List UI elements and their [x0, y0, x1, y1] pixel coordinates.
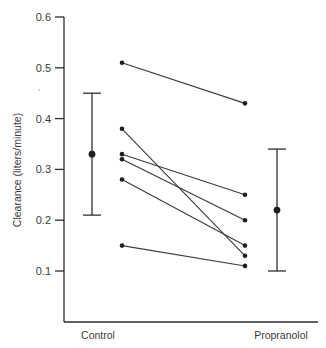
control-point: [120, 60, 125, 65]
propranolol-point: [243, 243, 248, 248]
propranolol-point: [243, 218, 248, 223]
y-axis: 0.10.20.30.40.50.6: [36, 11, 64, 322]
category-label-propranolol: Propranolol: [254, 329, 308, 341]
y-axis-label-group: Clearance (liters/minute): [11, 113, 23, 227]
propranolol-point: [243, 264, 248, 269]
y-tick-label: 0.6: [36, 11, 51, 23]
subject-pair-line: [122, 246, 245, 266]
y-tick-label: 0.3: [36, 163, 51, 175]
control-point: [120, 126, 125, 131]
control-mean-point: [89, 151, 96, 158]
subject-pair-line: [122, 63, 245, 104]
y-tick-label: 0.4: [36, 113, 51, 125]
y-tick-label: 0.1: [36, 265, 51, 277]
paired-lines: [120, 60, 248, 268]
subject-pair-line: [122, 129, 245, 256]
error-bars: [83, 93, 286, 271]
propranolol-point: [243, 101, 248, 106]
propranolol-point: [243, 253, 248, 258]
clearance-chart: 0.10.20.30.40.50.6 Clearance (liters/min…: [0, 0, 326, 348]
control-point: [120, 152, 125, 157]
y-tick-label: 0.2: [36, 214, 51, 226]
scan-speck: [38, 89, 39, 90]
control-point: [120, 157, 125, 162]
category-labels: Control Propranolol: [81, 329, 308, 341]
propranolol-point: [243, 193, 248, 198]
subject-pair-line: [122, 154, 245, 195]
control-point: [120, 177, 125, 182]
control-point: [120, 243, 125, 248]
category-label-control: Control: [81, 329, 115, 341]
propranolol-mean-point: [274, 207, 281, 214]
y-axis-label: Clearance (liters/minute): [11, 113, 23, 227]
y-tick-label: 0.5: [36, 62, 51, 74]
